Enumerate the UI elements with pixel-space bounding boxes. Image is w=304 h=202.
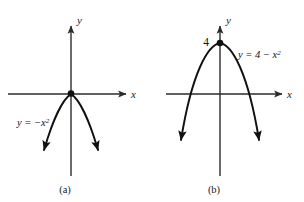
panel-b-equation-label: y = 4 − x2 [237,49,281,60]
panel-a: y x y = −x2 (a) [8,14,136,196]
panel-a-x-axis-label: x [130,88,136,100]
panel-a-equation-body: −x [34,117,46,128]
panel-b-curve-left-branch [181,43,220,140]
panel-b-vertex-point [217,40,224,47]
parabola-figure: y x y = −x2 (a) 4 y x y = 4 − x2 (b) [0,0,304,202]
panel-a-curve-right-branch [71,94,98,150]
panel-a-equation-label: y = −x2 [16,117,50,128]
panel-b-caption: (b) [208,184,221,196]
panel-a-origin-point [68,90,75,97]
panel-b-vertex-value-label: 4 [203,36,209,48]
panel-b-x-axis-label: x [286,88,292,100]
figure-canvas: y x y = −x2 (a) 4 y x y = 4 − x2 (b) [0,0,304,202]
panel-b: 4 y x y = 4 − x2 (b) [166,14,292,196]
panel-a-caption: (a) [59,184,71,196]
panel-b-equation-exponent: 2 [277,49,281,57]
panel-a-y-axis-label: y [76,14,82,26]
panel-b-y-axis-label: y [225,14,231,26]
panel-b-equation-lhs: y = 4 − [237,49,270,60]
panel-a-equation-exponent: 2 [46,117,50,125]
panel-a-equation-lhs: y = [16,117,31,128]
